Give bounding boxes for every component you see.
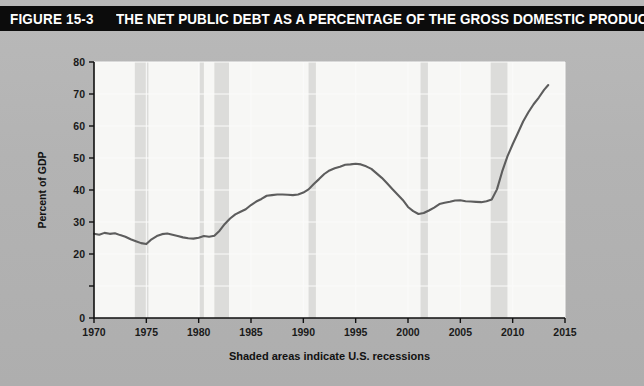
y-tick-label: 60 xyxy=(73,120,85,132)
x-tick-label: 1985 xyxy=(239,326,263,338)
x-tick-label: 1990 xyxy=(292,326,316,338)
chart-caption: Shaded areas indicate U.S. recessions xyxy=(229,350,430,362)
figure-container: FIGURE 15-3 THE NET PUBLIC DEBT AS A PER… xyxy=(0,0,644,386)
y-tick-label: 20 xyxy=(73,248,85,260)
x-tick-label: 2015 xyxy=(553,326,577,338)
x-tick-label: 2005 xyxy=(449,326,473,338)
x-tick-label: 1995 xyxy=(344,326,368,338)
y-tick-label: 50 xyxy=(73,152,85,164)
figure-number: FIGURE 15-3 xyxy=(10,11,94,27)
page-title: THE NET PUBLIC DEBT AS A PERCENTAGE OF T… xyxy=(116,11,644,27)
chart-area: 0203040506070801970197519801985199019952… xyxy=(0,31,644,386)
y-tick-label: 30 xyxy=(73,216,85,228)
debt-gdp-line-chart: 0203040506070801970197519801985199019952… xyxy=(0,31,644,386)
y-axis-title: Percent of GDP xyxy=(36,151,48,228)
y-tick-label: 0 xyxy=(79,312,85,324)
x-tick-label: 1975 xyxy=(135,326,159,338)
x-tick-label: 1970 xyxy=(82,326,106,338)
y-tick-label: 70 xyxy=(73,88,85,100)
y-tick-label: 40 xyxy=(73,184,85,196)
x-tick-label: 2010 xyxy=(501,326,525,338)
x-tick-label: 1980 xyxy=(187,326,211,338)
figure-title-bar: FIGURE 15-3 THE NET PUBLIC DEBT AS A PER… xyxy=(0,6,644,31)
y-tick-label: 80 xyxy=(73,56,85,68)
x-tick-label: 2000 xyxy=(396,326,420,338)
